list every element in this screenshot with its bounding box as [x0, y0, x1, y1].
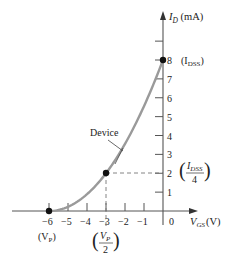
svg-text:(: (	[179, 159, 186, 182]
svg-text:2: 2	[103, 244, 108, 255]
idss-label: (IDSS)	[181, 55, 204, 68]
x-tick-labels: −6−5−4−3−2−10	[42, 216, 174, 227]
device-label: Device	[90, 127, 119, 138]
x-tick-label: −2	[118, 216, 129, 227]
svg-text:4: 4	[192, 174, 197, 185]
x-tick-label: −1	[137, 216, 148, 227]
point-vp	[46, 208, 52, 214]
point-half	[103, 170, 109, 176]
device-leader	[108, 140, 123, 151]
y-tick-label: 4	[167, 131, 172, 142]
svg-text:IDSS: IDSS	[186, 160, 203, 173]
vp-over-2-label: ( VP 2 )	[92, 229, 120, 255]
x-tick-label: −5	[61, 216, 72, 227]
y-tick-labels: 12345678	[167, 55, 172, 198]
x-axis-title: VGS(V)	[190, 216, 221, 229]
svg-text:): )	[204, 159, 211, 182]
vp-label: (VP)	[38, 231, 56, 244]
idss-over-4-label: ( IDSS 4 )	[179, 159, 211, 185]
y-tick-label: 5	[167, 112, 172, 123]
svg-text:): )	[113, 229, 120, 252]
x-tick-label: −6	[42, 216, 53, 227]
svg-text:VP: VP	[100, 230, 111, 243]
x-tick-label: −4	[80, 216, 91, 227]
y-tick-label: 6	[167, 93, 172, 104]
guide-lines	[106, 173, 163, 229]
y-tick-label: 1	[167, 187, 172, 198]
svg-text:(: (	[92, 229, 99, 252]
y-tick-label: 3	[167, 149, 172, 160]
transfer-characteristic-chart: −6−5−4−3−2−10 12345678 ID (mA) VGS(V) De…	[0, 0, 235, 264]
x-axis-arrow-icon	[189, 208, 198, 214]
x-tick-label: 0	[169, 216, 174, 227]
x-tick-label: −3	[99, 216, 110, 227]
point-idss	[160, 57, 166, 63]
y-axis-title: ID (mA)	[168, 11, 204, 25]
y-tick-label: 7	[167, 74, 172, 85]
y-tick-label: 8	[167, 55, 172, 66]
y-tick-label: 2	[167, 168, 172, 179]
y-axis-arrow-icon	[160, 11, 166, 20]
